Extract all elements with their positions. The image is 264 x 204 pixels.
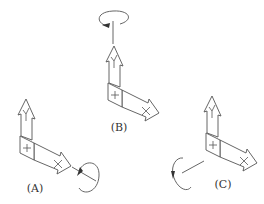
frame-a: [18, 99, 71, 174]
panel-label-c: (C): [215, 178, 232, 191]
rotation-arrow-c: [173, 158, 191, 190]
frame-b: [106, 46, 159, 121]
rotation-arrowhead-a-icon: [77, 167, 83, 176]
panel-c: (C): [171, 96, 257, 191]
rotation-arrowhead-b-icon: [102, 23, 110, 28]
rotation-arrowhead-c-icon: [171, 171, 175, 179]
frame-c: [204, 96, 257, 171]
panel-b: (B): [99, 11, 159, 134]
rotation-axis-c: [182, 161, 204, 173]
panel-label-b: (B): [111, 121, 128, 134]
coordinate-frames-diagram: (B) (A) (C): [0, 0, 264, 204]
panel-a: (A): [18, 99, 99, 195]
rotation-axis-a: [72, 167, 96, 181]
rotation-arrow-b: [99, 11, 128, 26]
panel-label-a: (A): [27, 182, 44, 195]
